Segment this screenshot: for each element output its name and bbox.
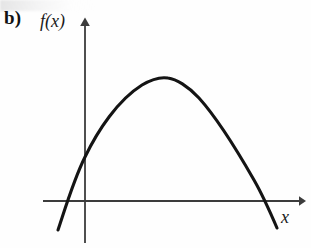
curve-group [58,78,277,230]
figure-panel: b) f(x) x [0,0,311,248]
y-axis-label: f(x) [40,10,65,32]
x-axis-arrowhead-icon [299,196,306,206]
x-axis-label: x [281,206,289,228]
function-curve [58,78,277,230]
axes-group [43,18,306,244]
parabola-plot [0,0,311,248]
panel-label: b) [4,7,21,29]
y-axis-arrowhead-icon [80,18,90,27]
